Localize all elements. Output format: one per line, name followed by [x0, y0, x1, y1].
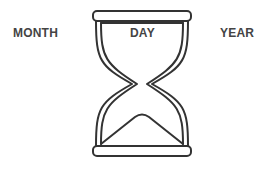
- year-label: YEAR: [220, 26, 254, 40]
- day-label: DAY: [130, 26, 155, 40]
- month-label: MONTH: [13, 26, 58, 40]
